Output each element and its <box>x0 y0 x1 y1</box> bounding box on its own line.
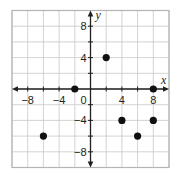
x-tick-label: −8 <box>21 94 34 106</box>
data-point <box>150 117 157 124</box>
data-point <box>40 133 47 140</box>
y-tick-label: −4 <box>74 114 87 126</box>
data-point <box>71 85 78 92</box>
x-axis-arrow-left-icon <box>12 86 18 92</box>
data-point <box>103 54 110 61</box>
y-axis-arrow-up-icon <box>88 11 94 17</box>
x-axis-arrow-right-icon <box>163 86 169 92</box>
y-tick-label: 4 <box>80 52 86 64</box>
data-point <box>118 117 125 124</box>
origin-label: 0 <box>80 94 86 106</box>
x-tick-label: −4 <box>53 94 66 106</box>
y-tick-label: −8 <box>74 146 87 158</box>
axes <box>12 11 169 168</box>
y-axis-label: y <box>95 8 102 22</box>
coordinate-plane: −8−448 −8−448 0 x y <box>0 0 178 180</box>
y-axis-arrow-down-icon <box>88 162 94 168</box>
data-point <box>150 85 157 92</box>
y-tick-label: 8 <box>80 20 86 32</box>
x-tick-label: 8 <box>150 94 156 106</box>
x-axis-label: x <box>160 73 167 87</box>
data-point <box>134 133 141 140</box>
x-tick-label: 4 <box>119 94 125 106</box>
